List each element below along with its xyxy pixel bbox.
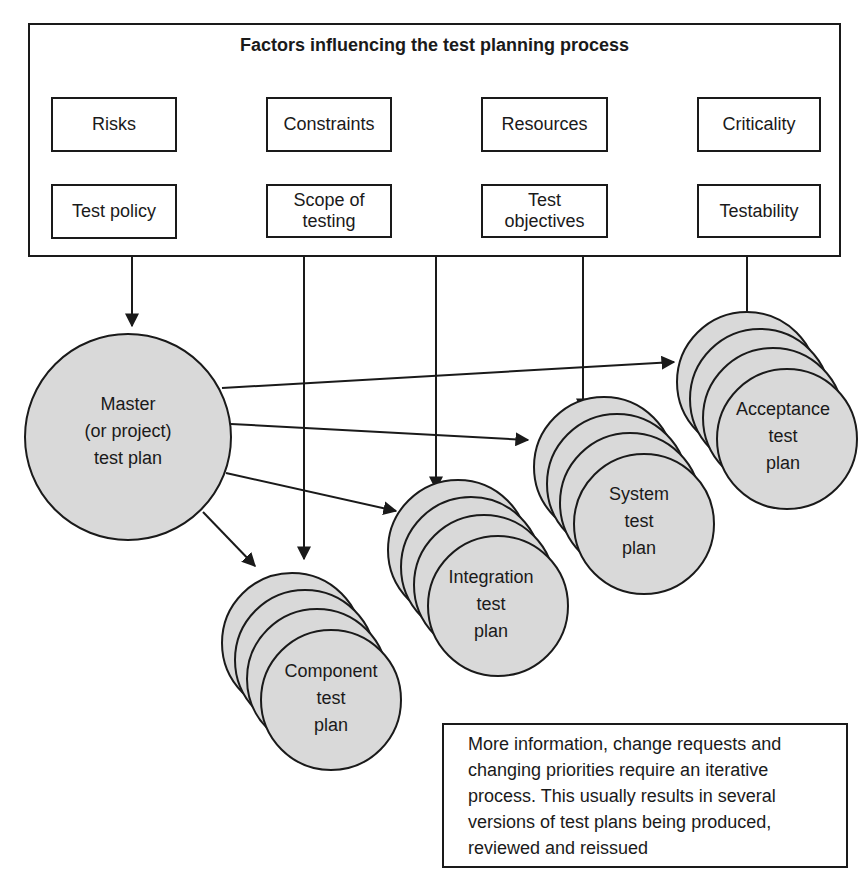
integration-line1: Integration <box>448 564 533 591</box>
system-plan-label: System test plan <box>609 481 669 562</box>
integration-line2: test <box>448 591 533 618</box>
arrow-master-to-integration <box>226 473 396 511</box>
iteration-note: More information, change requests and ch… <box>442 723 848 868</box>
master-plan-label: Master (or project) test plan <box>84 391 171 472</box>
component-line2: test <box>284 685 377 712</box>
arrow-master-to-system <box>231 424 528 440</box>
component-plan-label: Component test plan <box>284 658 377 739</box>
arrow-master-to-component <box>203 512 255 566</box>
system-line1: System <box>609 481 669 508</box>
component-line1: Component <box>284 658 377 685</box>
master-line3: test plan <box>84 445 171 472</box>
acceptance-line3: plan <box>736 450 830 477</box>
system-line3: plan <box>609 535 669 562</box>
acceptance-line1: Acceptance <box>736 396 830 423</box>
master-line1: Master <box>84 391 171 418</box>
integration-plan-label: Integration test plan <box>448 564 533 645</box>
component-line3: plan <box>284 712 377 739</box>
acceptance-line2: test <box>736 423 830 450</box>
integration-line3: plan <box>448 618 533 645</box>
arrow-master-to-acceptance <box>222 362 674 388</box>
master-line2: (or project) <box>84 418 171 445</box>
acceptance-plan-label: Acceptance test plan <box>736 396 830 477</box>
system-line2: test <box>609 508 669 535</box>
